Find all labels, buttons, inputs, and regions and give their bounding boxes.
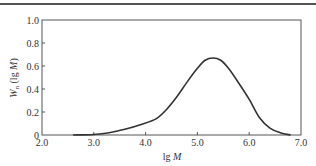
y-tick-label: 0.8 [27, 38, 40, 49]
y-tick-label: 0.4 [27, 84, 40, 95]
plot-frame [42, 20, 301, 135]
y-axis-label: Wn (lg M) [8, 58, 21, 98]
tick-labels: 2.03.04.05.06.07.000.20.40.60.81.0 [27, 15, 308, 149]
y-tick-label: 1.0 [27, 15, 40, 26]
y-tick-label: 0.2 [27, 107, 40, 118]
axis-ticks [42, 43, 249, 135]
x-tick-label: 5.0 [191, 137, 204, 148]
y-tick-label: 0.6 [27, 61, 40, 72]
x-axis-label: lg M [163, 151, 182, 162]
y-tick-label: 0 [34, 130, 39, 141]
x-tick-label: 3.0 [88, 137, 101, 148]
x-tick-label: 6.0 [243, 137, 256, 148]
x-tick-label: 7.0 [295, 137, 308, 148]
chart: 2.03.04.05.06.07.000.20.40.60.81.0 lg M … [0, 0, 316, 166]
plot-border [42, 20, 301, 135]
distribution-curve [73, 58, 291, 135]
x-tick-label: 4.0 [139, 137, 152, 148]
